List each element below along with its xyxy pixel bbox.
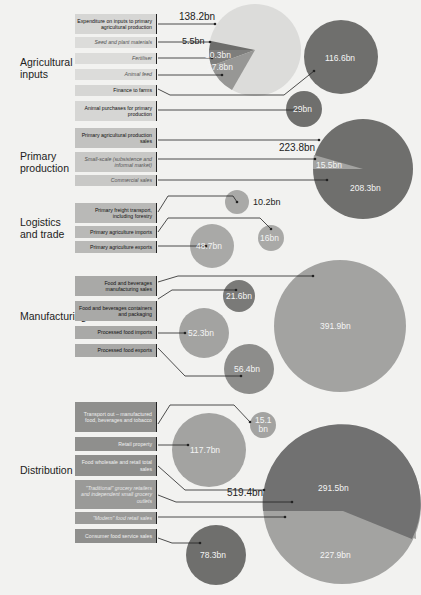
value-label: 116.6bn	[325, 53, 355, 63]
box-label: Food and beverages containers and packag…	[77, 305, 152, 318]
value-label: 21.6bn	[226, 291, 252, 301]
box-animal-feed: Animal feed	[75, 69, 157, 80]
box-transport-out: Transport out – manufactured food, bever…	[75, 402, 157, 432]
box-small-scale: Small-scale (subsistence and informal ma…	[75, 152, 157, 172]
pie-food-wholesale-retail	[263, 424, 421, 584]
box-label: Food wholesale and retail total sales	[77, 459, 152, 472]
value-label: 15.5bn	[316, 160, 342, 170]
box-label: Fertiliser	[132, 55, 152, 61]
category-label: inputs	[20, 68, 48, 80]
box-label: "Traditional" grocery retailers and inde…	[77, 485, 152, 504]
box-fb-manufacturing-sales: Food and beverages manufacturing sales	[75, 276, 157, 296]
box-animal-purchases: Animal purchases for primary production	[75, 101, 157, 121]
box-label: Finance to farms	[113, 87, 152, 93]
category-label: Distribution	[20, 464, 73, 476]
box-fb-containers: Food and beverages containers and packag…	[75, 301, 157, 321]
box-label: Seed and plant materials	[95, 39, 152, 45]
value-label: 391.9bn	[320, 321, 351, 331]
box-label: Food and beverages manufacturing sales	[77, 280, 152, 293]
box-consumer-food-service: Consumer food service sales	[75, 529, 157, 543]
chart-graphics	[0, 0, 421, 595]
value-label: 56.4bn	[234, 364, 260, 374]
box-label: Primary freight transport, including for…	[77, 207, 152, 220]
category-label: Agricultural	[20, 56, 73, 68]
box-modern-retail: "Modern" food retail sales	[75, 512, 157, 524]
box-finance-to-farms: Finance to farms	[75, 85, 157, 96]
value-label: 5.5bn	[182, 36, 205, 46]
box-traditional-grocery: "Traditional" grocery retailers and inde…	[75, 480, 157, 509]
value-label: 519.4bn	[227, 487, 263, 498]
value-label-part: bn	[259, 424, 268, 434]
box-commercial-sales: Commercial sales	[75, 175, 157, 186]
box-label: Primary agriculture exports	[90, 244, 152, 250]
value-label: 291.5bn	[318, 483, 349, 493]
box-processed-exports: Processed food exports	[75, 344, 157, 357]
box-primary-exports: Primary agriculture exports	[75, 241, 157, 253]
box-label: Commercial sales	[111, 177, 152, 183]
value-label: 10.2bn	[253, 197, 281, 207]
box-label: "Modern" food retail sales	[93, 515, 152, 521]
category-label: Primary	[20, 150, 56, 162]
box-label: Processed food exports	[98, 347, 153, 353]
box-label: Expenditure on inputs to primary agricul…	[77, 18, 152, 31]
box-label: Small-scale (subsistence and informal ma…	[77, 156, 152, 169]
box-primary-ag-sales: Primary agricultural production sales	[75, 128, 157, 148]
box-label: Animal purchases for primary production	[77, 105, 152, 118]
value-label: 227.9bn	[320, 550, 351, 560]
box-label: Consumer food service sales	[85, 533, 152, 539]
category-label: Logistics	[20, 216, 61, 228]
category-label: production	[20, 162, 69, 174]
food-system-chart: Agricultural inputs Primary production L…	[0, 0, 421, 595]
box-wholesale-retail-sales: Food wholesale and retail total sales	[75, 455, 157, 476]
box-label: Processed food imports	[98, 329, 153, 335]
value-label: 138.2bn	[179, 11, 215, 22]
box-expenditure-inputs: Expenditure on inputs to primary agricul…	[75, 14, 157, 34]
box-primary-imports: Primary agriculture imports	[75, 226, 157, 238]
box-fertiliser: Fertiliser	[75, 53, 157, 64]
value-label: 10.3bn	[205, 50, 231, 60]
value-label: 78.3bn	[200, 550, 226, 560]
box-label: Primary agriculture imports	[90, 229, 152, 235]
box-label: Retail property	[118, 441, 152, 447]
box-processed-imports: Processed food imports	[75, 326, 157, 339]
value-label: 27.8bn	[207, 62, 233, 72]
box-label: Animal feed	[125, 71, 152, 77]
value-label: 16bn	[260, 233, 279, 243]
value-label: 208.3bn	[350, 183, 381, 193]
value-label: 223.8bn	[279, 142, 315, 153]
value-label: 52.3bn	[188, 328, 214, 338]
box-primary-freight: Primary freight transport, including for…	[75, 203, 157, 223]
box-label: Primary agricultural production sales	[77, 132, 152, 145]
value-label: 48.7bn	[196, 241, 222, 251]
value-label: 15.1 bn	[255, 416, 272, 434]
box-retail-property: Retail property	[75, 437, 157, 451]
category-label: and trade	[20, 228, 64, 240]
box-seed-plant: Seed and plant materials	[75, 37, 157, 48]
box-label: Transport out – manufactured food, bever…	[77, 411, 152, 424]
value-label: 29bn	[293, 104, 312, 114]
value-label: 117.7bn	[190, 445, 220, 455]
